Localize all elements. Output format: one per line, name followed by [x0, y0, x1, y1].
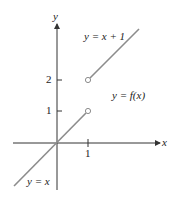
- x-tick-label-1: 1: [85, 148, 91, 159]
- curve-label-y-equals-x-plus-1: y = x + 1: [84, 31, 125, 42]
- open-endpoint-upper: [85, 77, 90, 82]
- curve-label-y-equals-x: y = x: [27, 176, 50, 187]
- y-tick-label-2: 2: [46, 74, 52, 85]
- y-tick-label-1: 1: [46, 105, 52, 116]
- piecewise-function-graph: y x 1 1 2 y = x + 1 y = f(x) y = x: [0, 0, 173, 201]
- function-label: y = f(x): [112, 90, 145, 101]
- x-axis-label: x: [162, 137, 167, 148]
- open-endpoint-lower: [85, 108, 90, 113]
- curve-y-equals-x: [14, 113, 86, 186]
- y-axis-label: y: [53, 11, 58, 22]
